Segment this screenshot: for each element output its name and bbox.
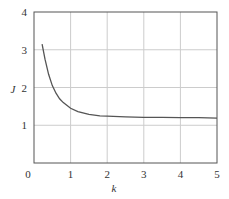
y-tick-label: 1 — [22, 119, 28, 131]
x-tick-label: 5 — [214, 168, 220, 180]
y-tick-label: 2 — [22, 82, 28, 94]
y-axis-label: J — [11, 83, 17, 95]
x-tick-label: 0 — [25, 168, 31, 180]
x-tick-label: 3 — [141, 168, 147, 180]
x-tick-label: 4 — [178, 168, 184, 180]
x-tick-label: 2 — [104, 168, 110, 180]
line-chart: 012345 1234 k J — [0, 0, 229, 199]
x-tick-labels: 012345 — [25, 168, 220, 180]
x-tick-label: 1 — [68, 168, 74, 180]
y-tick-label: 3 — [22, 44, 28, 56]
y-tick-label: 4 — [22, 6, 28, 18]
y-tick-labels: 1234 — [22, 6, 28, 131]
grid-lines — [34, 12, 217, 163]
data-line-j-vs-k — [42, 44, 217, 118]
x-axis-label: k — [112, 182, 118, 194]
